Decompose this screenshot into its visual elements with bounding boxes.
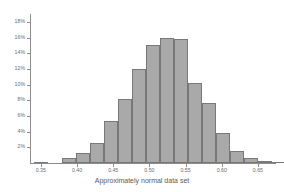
y-axis-tick-label: 4% <box>18 129 26 134</box>
histogram-chart: 2%4%6%8%10%12%14%16%18% 0.350.400.450.50… <box>0 0 284 192</box>
y-axis-tick-label: 12% <box>15 66 25 71</box>
y-axis-tick-label: 6% <box>18 113 26 118</box>
histogram-bar <box>202 103 216 163</box>
x-axis-tick-label: 0.55 <box>180 168 190 173</box>
histogram-bar <box>76 153 90 163</box>
histogram-bar <box>160 38 174 163</box>
y-axis-tick-label: 16% <box>15 35 25 40</box>
histogram-bar <box>244 158 258 163</box>
histogram-bar <box>216 133 230 163</box>
y-axis-tick-label: 10% <box>15 82 25 87</box>
y-axis-tick-label: 18% <box>15 19 25 24</box>
x-axis-tick-label: 0.35 <box>36 168 46 173</box>
histogram-bar <box>132 69 146 163</box>
x-axis-line <box>30 163 276 164</box>
histogram-bar <box>174 39 188 163</box>
histogram-bar <box>258 161 272 163</box>
histogram-bar <box>188 83 202 163</box>
histogram-bar <box>146 45 160 163</box>
histogram-bar <box>118 99 132 163</box>
histogram-bar <box>104 121 118 163</box>
y-axis-tick-label: 8% <box>18 98 26 103</box>
x-axis-tick-label: 0.45 <box>108 168 118 173</box>
x-axis-tick-label: 0.65 <box>253 168 263 173</box>
histogram-bar <box>90 143 104 163</box>
x-axis-tick-label: 0.60 <box>217 168 227 173</box>
x-axis-tick-label: 0.50 <box>144 168 154 173</box>
x-axis-tick-label: 0.40 <box>72 168 82 173</box>
histogram-bar <box>34 162 48 163</box>
y-axis-tick-label: 2% <box>18 145 26 150</box>
histogram-bar <box>272 162 284 163</box>
x-axis-title: Approximately normal data set <box>0 177 284 185</box>
plot-area <box>30 14 274 163</box>
histogram-bar <box>230 151 244 163</box>
histogram-bar <box>62 158 76 163</box>
y-axis-tick-label: 14% <box>15 51 25 56</box>
